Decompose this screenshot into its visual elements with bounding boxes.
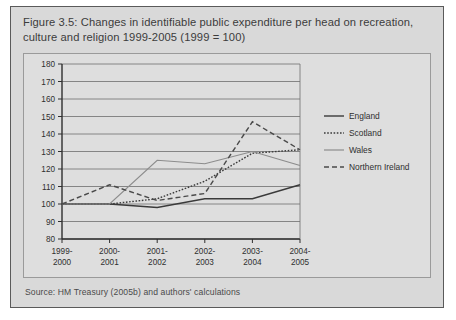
x-axis-tick-label: 2002: [148, 258, 167, 267]
legend-label-northern-ireland: Northern Ireland: [349, 162, 410, 172]
x-axis-tick-label: 2005: [291, 258, 310, 267]
x-axis-tick-label: 2001-: [147, 247, 168, 256]
legend-label-scotland: Scotland: [349, 128, 382, 138]
source-note: Source: HM Treasury (2005b) and authors'…: [25, 287, 240, 297]
legend-label-wales: Wales: [349, 145, 372, 155]
y-axis-tick-label: 80: [46, 235, 56, 244]
x-axis-tick-label: 2000-: [99, 247, 120, 256]
chart-canvas: 80901001101201301401501601701801999-2000…: [24, 54, 430, 277]
x-axis-tick-label: 1999-: [52, 247, 73, 256]
x-axis-tick-label: 2001: [100, 258, 119, 267]
x-axis-tick-label: 2003-: [242, 247, 263, 256]
y-axis-tick-label: 150: [41, 113, 55, 122]
y-axis-tick-label: 140: [41, 130, 55, 139]
y-axis-tick-label: 100: [41, 200, 55, 209]
chart-area: 80901001101201301401501601701801999-2000…: [23, 53, 431, 278]
y-axis-tick-label: 180: [41, 60, 55, 69]
x-axis-tick-label: 2002-: [194, 247, 215, 256]
x-axis-tick-label: 2003: [196, 258, 215, 267]
x-axis-tick-label: 2004: [243, 258, 262, 267]
x-axis-tick-label: 2000: [53, 258, 72, 267]
y-axis-tick-label: 120: [41, 165, 55, 174]
figure-panel: Figure 3.5: Changes in identifiable publ…: [10, 6, 444, 308]
figure-title: Figure 3.5: Changes in identifiable publ…: [23, 15, 433, 45]
y-axis-tick-label: 170: [41, 78, 55, 87]
y-axis-tick-label: 130: [41, 148, 55, 157]
y-axis-tick-label: 160: [41, 95, 55, 104]
legend-label-england: England: [349, 111, 380, 121]
line-chart: 80901001101201301401501601701801999-2000…: [24, 54, 430, 277]
x-axis-tick-label: 2004-: [290, 247, 311, 256]
y-axis-tick-label: 90: [46, 218, 56, 227]
y-axis-tick-label: 110: [42, 183, 55, 192]
